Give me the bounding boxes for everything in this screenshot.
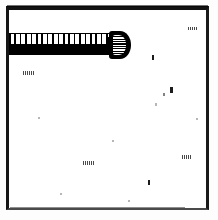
scan-speck-dot (60, 193, 62, 195)
scan-speck-dot (196, 118, 198, 120)
scan-speck-dot (148, 180, 150, 185)
scan-speck-dot (112, 140, 114, 142)
scan-speck-dot (155, 103, 157, 106)
screw-thread-ridges (9, 33, 114, 44)
scan-speck-dot (38, 117, 40, 119)
scanned-figure-canvas (0, 0, 218, 220)
frame-top-rule-ink (7, 5, 208, 7)
screw-shaft-body (9, 44, 114, 55)
screw-threaded-shaft (9, 33, 114, 55)
scan-speck-mark (83, 161, 94, 165)
screw-knurled-head (109, 31, 131, 59)
screw-head-knurl-lines (113, 35, 126, 55)
scan-speck-dot (170, 87, 173, 93)
scan-speck-dot (152, 55, 154, 60)
screw-illustration (9, 31, 127, 59)
scan-speck-mark (23, 71, 34, 75)
scan-speck-dot (163, 93, 165, 96)
scan-speck-dot (128, 200, 130, 202)
frame-bottom-rule-faded (10, 207, 185, 208)
scan-speck-mark (188, 27, 197, 30)
scan-speck-mark (182, 155, 192, 159)
